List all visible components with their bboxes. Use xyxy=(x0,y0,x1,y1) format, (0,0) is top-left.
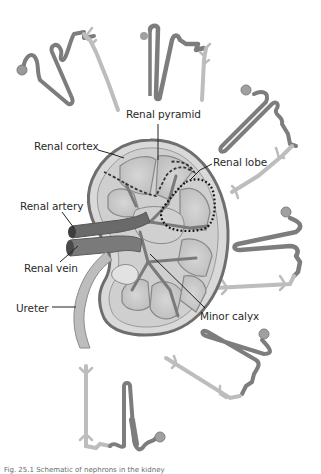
nephron-top-left xyxy=(17,28,118,110)
nephron-upper-right xyxy=(220,85,296,198)
figure-caption: Fig. 25.1 Schematic of nephrons in the k… xyxy=(4,466,165,474)
label-renal-lobe: Renal lobe xyxy=(213,156,267,168)
label-minor-calyx: Minor calyx xyxy=(200,310,259,322)
label-renal-vein: Renal vein xyxy=(24,262,78,274)
nephron-bottom xyxy=(80,366,165,449)
label-ureter: Ureter xyxy=(16,302,49,314)
nephron-lower-right xyxy=(166,329,270,398)
label-renal-pyramid: Renal pyramid xyxy=(126,108,201,120)
label-renal-artery: Renal artery xyxy=(20,200,83,212)
nephron-top-center xyxy=(140,26,210,100)
label-renal-cortex: Renal cortex xyxy=(34,140,99,152)
